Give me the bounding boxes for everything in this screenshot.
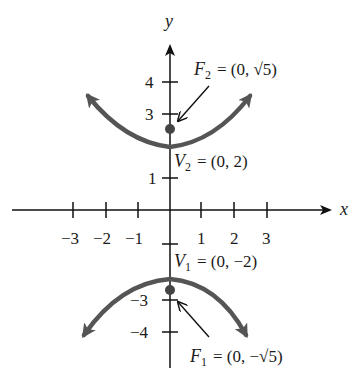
svg-text:V2= (0, 2): V2= (0, 2) [174,151,248,174]
v2-sub: 2 [185,160,191,174]
x-tick-label: 3 [262,229,271,248]
x-tick-label: 1 [197,229,206,248]
f2-pointer-arrow [178,86,209,121]
hyperbola-diagram: x −3 −2 −1 1 2 3 y 4 3 1 −3 −4 [0,0,357,379]
v2-label: V2= (0, 2) [174,151,248,174]
x-tick-label: −1 [125,229,143,248]
svg-text:F2= (0, √5): F2= (0, √5) [193,59,277,82]
y-tick-label: −4 [130,323,149,342]
y-tick-label: −3 [130,291,148,310]
svg-text:F1= (0, −√5): F1= (0, −√5) [189,346,283,369]
v1-label: V1= (0, −2) [174,251,257,274]
svg-text:V1= (0, −2): V1= (0, −2) [174,251,257,274]
f1-pointer-arrow [178,302,209,337]
x-axis: x −3 −2 −1 1 2 3 [12,199,348,248]
x-tick-label: −3 [61,229,79,248]
f1-coords: = (0, −√5) [213,347,283,366]
y-tick-label: 4 [145,73,154,92]
focus-f2-dot [165,124,175,134]
y-axis-label: y [163,11,173,31]
x-axis-label: x [339,199,348,219]
f1-label: F1= (0, −√5) [189,346,283,369]
f2-label: F2= (0, √5) [193,59,277,82]
x-tick-label: −2 [93,229,111,248]
v1-sub: 1 [185,260,191,274]
y-axis: y 4 3 1 −3 −4 [130,11,178,368]
v2-coords: = (0, 2) [197,152,248,171]
x-tick-label: 2 [230,229,239,248]
lower-branch [84,279,246,335]
f2-sub: 2 [205,68,211,82]
f2-coords: = (0, √5) [217,60,277,79]
upper-branch [88,96,250,147]
f1-sub: 1 [201,355,207,369]
y-tick-label: 3 [145,105,154,124]
focus-f1-dot [165,285,175,295]
v1-coords: = (0, −2) [197,252,257,271]
y-tick-label: 1 [148,169,157,188]
